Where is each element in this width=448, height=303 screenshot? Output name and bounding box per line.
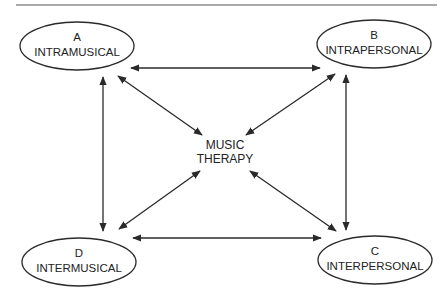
- node-b-letter: B: [370, 29, 378, 41]
- edge-c-center-arrow: [250, 171, 336, 231]
- node-a-intramusical: A INTRAMUSICAL: [20, 22, 134, 70]
- center-music-therapy: MUSIC THERAPY: [197, 138, 254, 166]
- node-d-letter: D: [75, 247, 83, 259]
- node-d-label: INTERMUSICAL: [36, 262, 122, 274]
- edge-b-center-arrow: [246, 74, 335, 135]
- node-b-label: INTRAPERSONAL: [325, 44, 423, 56]
- node-c-interpersonal: C INTERPERSONAL: [318, 236, 432, 284]
- node-c-letter: C: [371, 245, 379, 257]
- node-c-label: INTERPERSONAL: [326, 260, 424, 272]
- music-therapy-diagram: A INTRAMUSICAL B INTRAPERSONAL C INTERPE…: [0, 0, 448, 303]
- node-d-intermusical: D INTERMUSICAL: [22, 238, 136, 286]
- node-b-intrapersonal: B INTRAPERSONAL: [317, 20, 431, 68]
- center-label-line2: THERAPY: [197, 152, 254, 166]
- edge-d-center-arrow: [119, 171, 200, 229]
- center-label-line1: MUSIC: [206, 138, 245, 152]
- node-a-letter: A: [73, 31, 81, 43]
- node-a-label: INTRAMUSICAL: [34, 46, 120, 58]
- edge-a-center-arrow: [118, 76, 202, 135]
